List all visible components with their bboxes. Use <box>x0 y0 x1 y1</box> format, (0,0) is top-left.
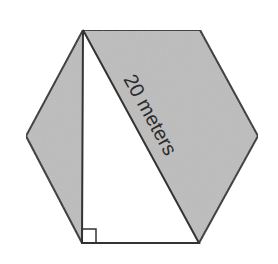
hexagon-diagram: 20 meters <box>0 0 278 264</box>
